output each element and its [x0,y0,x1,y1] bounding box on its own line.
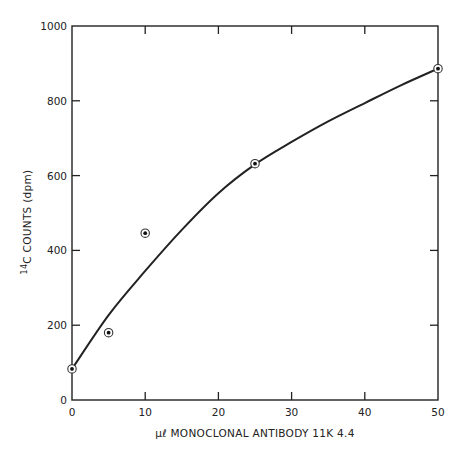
x-tick-label: 40 [358,406,371,418]
y-tick-label: 0 [60,394,67,406]
plot-border [72,26,438,400]
data-point-marker [104,328,112,336]
y-axis-label-main: C COUNTS (dpm) [21,170,33,264]
x-tick-label: 50 [431,406,444,418]
data-points [68,64,442,373]
y-axis-label: 14C COUNTS (dpm) [20,170,33,275]
y-axis-label-superscript: 14 [20,264,29,275]
fitted-curve [72,69,438,369]
y-tick-label: 1000 [40,20,67,32]
chart: 02004006008001000 01020304050 μℓ MONOCLO… [0,0,466,457]
x-tick-label: 10 [139,406,152,418]
data-point-marker [68,365,76,373]
y-tick-label: 600 [47,170,67,182]
data-point-marker [251,159,259,167]
data-point-marker [141,229,149,237]
y-axis-ticks: 02004006008001000 [40,20,438,406]
x-tick-label: 0 [69,406,76,418]
x-axis-label: μℓ MONOCLONAL ANTIBODY 11K 4.4 [155,427,354,439]
x-axis-ticks: 01020304050 [69,26,445,418]
y-tick-label: 800 [47,95,67,107]
x-tick-label: 30 [285,406,298,418]
fit-curve-path [72,69,438,369]
x-tick-label: 20 [212,406,225,418]
plot-frame [72,26,438,400]
y-tick-label: 400 [47,244,67,256]
y-tick-label: 200 [47,319,67,331]
data-point-marker [434,64,442,72]
